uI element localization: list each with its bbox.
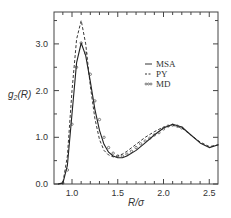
md-marker (144, 140, 146, 142)
md-marker (112, 152, 114, 154)
md-marker (103, 136, 105, 138)
rdf-chart: 1.01.52.02.50.01.02.03.0 R/σ g2(R) MSA P… (0, 0, 231, 218)
md-marker (107, 146, 109, 148)
x-tick-label: 1.0 (66, 188, 79, 198)
legend: MSA PY MD (145, 59, 176, 89)
md-marker (135, 146, 137, 148)
legend-md: MD (156, 79, 171, 89)
msa-line (58, 43, 218, 184)
md-marker (98, 118, 100, 120)
x-tick-label: 2.0 (157, 188, 170, 198)
x-tick-label: 1.5 (111, 188, 124, 198)
legend-msa: MSA (156, 59, 176, 69)
y-tick-label: 0.0 (35, 179, 48, 189)
x-tick-label: 2.5 (203, 188, 216, 198)
md-marker (126, 153, 128, 155)
x-axis-label: R/σ (128, 197, 145, 208)
legend-py: PY (156, 69, 168, 79)
y-tick-label: 3.0 (35, 39, 48, 49)
y-tick-label: 2.0 (35, 86, 48, 96)
md-marker (130, 150, 132, 152)
plot-frame (54, 12, 218, 184)
md-marker (121, 155, 123, 157)
data-series (58, 21, 218, 185)
y-tick-label: 1.0 (35, 132, 48, 142)
axis-ticks: 1.01.52.02.50.01.02.03.0 (35, 12, 218, 198)
md-marker (139, 143, 141, 145)
y-axis-label: g2(R) (8, 89, 31, 101)
